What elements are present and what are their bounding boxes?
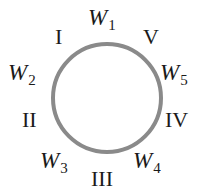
- ring-diagram: W1W2W3W4W5 IIIIIIIVV: [0, 0, 203, 194]
- label-region-V: V: [143, 24, 159, 49]
- label-region-II: II: [22, 107, 37, 132]
- label-w2: W2: [8, 60, 36, 88]
- label-w3: W3: [40, 148, 68, 176]
- label-w1: W1: [88, 5, 116, 33]
- ring-circle: [53, 44, 161, 152]
- label-region-III: III: [91, 166, 113, 191]
- label-w5: W5: [160, 60, 188, 88]
- label-w4: W4: [133, 148, 161, 176]
- label-region-I: I: [55, 24, 62, 49]
- label-region-IV: IV: [165, 107, 188, 132]
